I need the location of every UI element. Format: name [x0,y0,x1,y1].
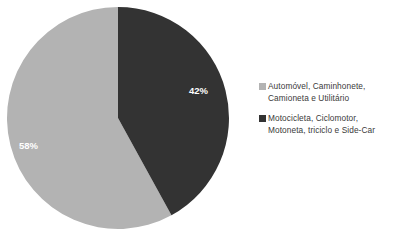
legend-label-motocicleta: Motocicleta, Ciclomotor, Motoneta, trici… [268,113,375,136]
legend-label-automovel: Automóvel, Caminhonete, Camioneta e Util… [268,81,365,104]
pie-chart-figure: 42% 58% Automóvel, Caminhonete, Camionet… [0,0,410,230]
legend-swatch-icon-motocicleta [259,115,266,122]
pie-slice-label-motocicleta: 42% [189,85,209,96]
pie-svg: 42% 58% [6,6,230,230]
pie-plot-area: 42% 58% [6,6,230,230]
legend-item-motocicleta[interactable]: Motocicleta, Ciclomotor, Motoneta, trici… [259,113,409,136]
legend: Automóvel, Caminhonete, Camioneta e Util… [259,81,409,145]
pie-slice-label-automovel: 58% [19,140,39,151]
legend-swatch-icon-automovel [259,83,266,90]
legend-item-automovel[interactable]: Automóvel, Caminhonete, Camioneta e Util… [259,81,409,104]
